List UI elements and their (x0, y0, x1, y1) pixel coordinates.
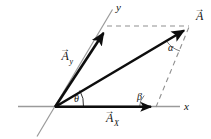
vector-Ay-label: A (61, 49, 70, 63)
dashed-right-diagonal-line (156, 27, 189, 107)
angle-alpha-label: α (168, 42, 174, 53)
vector-Ax-label-group: → A X (105, 105, 121, 128)
vector-Ay-subscript: y (69, 57, 74, 66)
x-axis-label: x (183, 100, 189, 112)
vector-diagram-figure: y x → A → A y → A X θ α (0, 0, 211, 139)
dashed-lines-group (107, 26, 189, 107)
angle-arcs-group (80, 41, 180, 107)
vector-diagram-canvas: y x → A → A y → A X θ α (0, 0, 211, 139)
y-axis-label: y (115, 1, 121, 13)
vector-A-label-group: → A (195, 3, 205, 23)
vector-A-label: A (195, 9, 204, 23)
angle-theta-label: θ (74, 93, 79, 104)
vector-Ay-label-group: → A y (60, 43, 74, 66)
vector-Ax-label: A (105, 111, 114, 125)
axes-group (18, 10, 180, 137)
vector-Ax-subscript: X (113, 119, 120, 128)
y-axis-line (37, 10, 113, 137)
angle-beta-label: β (136, 91, 142, 102)
